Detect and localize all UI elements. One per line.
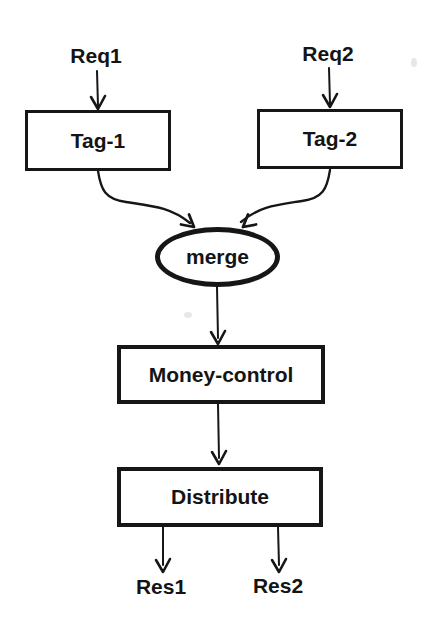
edge-tag2-to-merge: [241, 170, 330, 227]
flow-diagram: Req1 Req2 Tag-1 Tag-2 merge Money-contro…: [0, 0, 429, 618]
node-tag-1: Tag-1: [25, 110, 171, 171]
node-tag-2: Tag-2: [257, 109, 403, 169]
input-label-req2: Req2: [302, 42, 353, 66]
node-distribute: Distribute: [117, 467, 323, 527]
node-tag-2-label: Tag-2: [303, 127, 357, 151]
scan-speck: [184, 312, 192, 318]
edge-distribute-to-res2: [272, 527, 286, 572]
scan-speck: [411, 58, 417, 67]
edge-moneycontrol-to-distribute: [212, 404, 226, 464]
edge-req1-to-tag1: [91, 71, 105, 109]
node-money-control: Money-control: [117, 345, 325, 404]
node-tag-1-label: Tag-1: [71, 129, 125, 153]
edge-tag1-to-merge: [98, 171, 194, 227]
edge-distribute-to-res1: [156, 527, 170, 572]
output-label-res1: Res1: [136, 575, 186, 599]
input-label-req1: Req1: [70, 44, 121, 68]
node-merge-label: merge: [186, 245, 249, 269]
node-merge: merge: [155, 227, 280, 287]
edge-req2-to-tag2: [323, 68, 337, 107]
node-money-control-label: Money-control: [149, 363, 294, 387]
output-label-res2: Res2: [253, 574, 303, 598]
edge-merge-to-moneycontrol: [211, 287, 225, 344]
node-distribute-label: Distribute: [171, 485, 269, 509]
